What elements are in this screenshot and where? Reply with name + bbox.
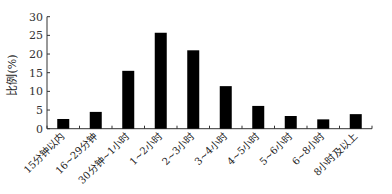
bar: [155, 33, 167, 129]
bars: [57, 33, 362, 129]
x-tick-label: 2~3小时: [160, 130, 197, 167]
y-tick-label: 15: [29, 67, 43, 80]
x-tick-label: 5~6小时: [257, 130, 294, 167]
bar: [90, 112, 102, 129]
y-tick-label: 30: [29, 11, 43, 24]
x-tick-label: 1~2小时: [127, 130, 164, 167]
y-tick-label: 0: [36, 123, 43, 136]
bar: [187, 50, 199, 128]
y-axis: 051015202530: [29, 11, 50, 136]
x-tick-label: 4~5小时: [225, 130, 262, 167]
y-axis-label: 比例(%): [5, 54, 19, 95]
bar: [220, 86, 232, 129]
bar: [285, 116, 297, 129]
bar: [57, 119, 69, 129]
y-tick-label: 5: [36, 104, 43, 117]
bar: [122, 71, 134, 129]
x-tick-label: 3~4小时: [192, 130, 229, 167]
bar: [350, 114, 362, 129]
x-axis: 15分钟以内16~29分钟30分钟~1小时1~2小时2~3小时3~4小时4~5小…: [21, 126, 372, 186]
bar: [317, 119, 329, 128]
bar: [252, 106, 264, 129]
y-tick-label: 10: [29, 85, 43, 98]
y-tick-label: 20: [29, 48, 43, 61]
bar-chart: 051015202530 15分钟以内16~29分钟30分钟~1小时1~2小时2…: [0, 0, 392, 194]
y-tick-label: 25: [29, 29, 43, 42]
